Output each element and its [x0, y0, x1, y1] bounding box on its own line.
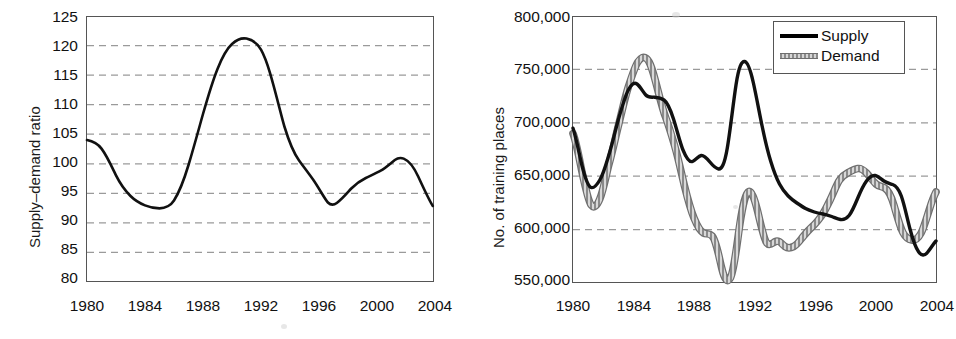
- left-chart-xtick-1984: 1984: [117, 298, 173, 314]
- right-chart-xtick-1992: 1992: [727, 298, 783, 314]
- right-chart-xtick-1988: 1988: [666, 298, 722, 314]
- left-chart-xtick-1992: 1992: [233, 298, 289, 314]
- legend-swatch-supply-line-icon: [780, 34, 818, 38]
- left-chart-gridlines: [87, 46, 433, 253]
- scan-artifact: [672, 12, 680, 18]
- scan-artifact: [733, 205, 738, 209]
- left-chart-canvas: [0, 0, 478, 339]
- right-chart-xtick-1984: 1984: [606, 298, 662, 314]
- right-chart-xtick-1996: 1996: [788, 298, 844, 314]
- right-chart-line-supply: [573, 61, 936, 255]
- chart-panel-supply-demand-ratio: Supply–demand ratio 125 120 115 110 105 …: [0, 0, 478, 339]
- scan-artifact: [281, 324, 287, 329]
- right-chart-xtick-2004: 2004: [909, 298, 956, 314]
- right-chart-xtick-2000: 2000: [848, 298, 904, 314]
- right-chart-xtick-1980: 1980: [545, 298, 601, 314]
- left-chart-line-ratio: [87, 38, 433, 208]
- left-chart-xtick-2000: 2000: [349, 298, 405, 314]
- legend-item-demand: Demand: [780, 46, 897, 66]
- legend-label-demand: Demand: [821, 48, 880, 64]
- left-chart-xtick-1988: 1988: [175, 298, 231, 314]
- legend-label-supply: Supply: [821, 28, 868, 44]
- chart-panel-training-places: No. of training places 800,000 750,000 7…: [478, 0, 956, 339]
- left-chart-xtick-1996: 1996: [291, 298, 347, 314]
- left-chart-xtick-1980: 1980: [59, 298, 115, 314]
- left-chart-xtick-2004: 2004: [407, 298, 463, 314]
- right-chart-legend: Supply Demand: [773, 21, 905, 74]
- legend-item-supply: Supply: [780, 26, 897, 46]
- legend-swatch-demand-line-icon: [780, 53, 818, 59]
- figure-two-line-charts: Supply–demand ratio 125 120 115 110 105 …: [0, 0, 956, 339]
